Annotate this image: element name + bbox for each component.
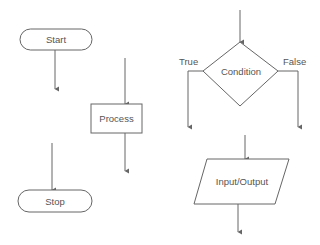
flowchart-canvas: Start Process Stop Condition True False … xyxy=(0,0,320,245)
condition-diamond: Condition xyxy=(203,42,278,106)
false-branch-arrow xyxy=(278,71,298,127)
io-label: Input/Output xyxy=(216,176,269,187)
stop-label: Stop xyxy=(45,196,65,207)
condition-label: Condition xyxy=(221,66,261,77)
process-label: Process xyxy=(99,113,134,124)
start-terminator: Start xyxy=(20,29,92,50)
io-parallelogram: Input/Output xyxy=(194,159,289,204)
stop-terminator: Stop xyxy=(18,190,92,212)
false-branch-label: False xyxy=(283,56,306,67)
start-label: Start xyxy=(46,34,66,45)
true-branch-arrow xyxy=(188,71,203,127)
process-box: Process xyxy=(91,104,142,133)
true-branch-label: True xyxy=(179,56,198,67)
